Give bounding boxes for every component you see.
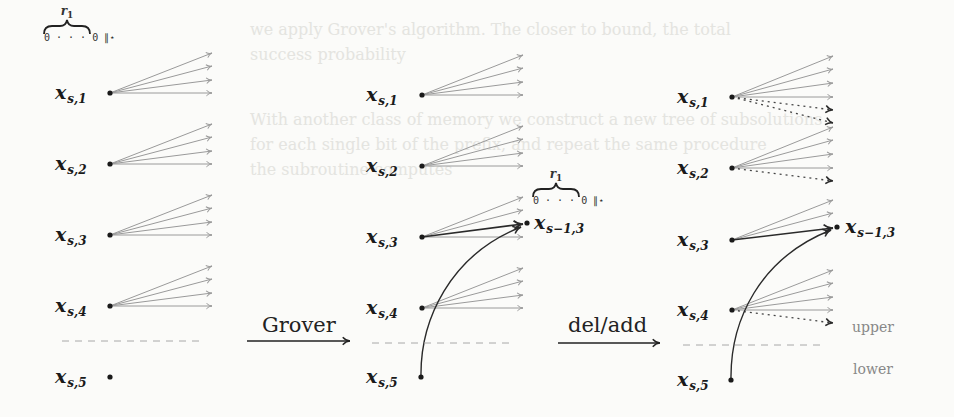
fan-s3 xyxy=(110,195,212,235)
node-label-s4: xs,4 xyxy=(55,296,87,318)
fan-s4 xyxy=(110,266,212,306)
dotted-arrow xyxy=(732,97,833,123)
fan-s4 xyxy=(422,268,523,308)
brace-annotation-col1: r1 xyxy=(40,5,94,20)
node-label-s3: xs,3 xyxy=(55,225,87,247)
node-label-s1: xs,1 xyxy=(677,87,709,109)
node-label-s5: xs,5 xyxy=(55,367,87,389)
node-label-s2: xs,2 xyxy=(366,156,398,178)
brace-label-sub: 1 xyxy=(556,173,562,183)
target-label-s-minus-1-3: xs−1,3 xyxy=(534,213,584,235)
region-label-lower: lower xyxy=(853,362,893,376)
fan-s1 xyxy=(422,55,523,95)
node-label-s2: xs,2 xyxy=(677,158,709,180)
region-label-upper: upper xyxy=(852,320,894,334)
column-initial-fans xyxy=(110,53,212,306)
column-initial-dots xyxy=(107,90,112,379)
dotted-arrow xyxy=(732,97,833,110)
brace-under-text: 0 · · · 0 ∥⋆ xyxy=(533,196,604,206)
dotted-arrow xyxy=(732,168,833,181)
brace-label-sub: 1 xyxy=(67,10,73,20)
node-label-s2: xs,2 xyxy=(55,154,87,176)
column-after-del-add-dotted-fans xyxy=(732,97,833,323)
fan-s2 xyxy=(110,124,212,164)
fan-s1 xyxy=(732,56,833,97)
column-after-grover-fans xyxy=(422,55,523,308)
brace-under-text: 0 · · · 0 ∥⋆ xyxy=(44,33,115,43)
fan-s1 xyxy=(110,53,212,93)
node-label-s4: xs,4 xyxy=(366,298,398,320)
dotted-arrow xyxy=(732,310,833,323)
node-label-s3: xs,3 xyxy=(366,227,398,249)
column-after-del-add-fans xyxy=(732,56,833,310)
brace-under-col2: 0 · · · 0 ∥⋆ xyxy=(533,196,604,206)
node-label-s5: xs,5 xyxy=(677,370,709,392)
node-label-s4: xs,4 xyxy=(677,300,709,322)
node-label-s1: xs,1 xyxy=(55,83,87,105)
node-label-s5: xs,5 xyxy=(366,367,398,389)
brace-annotation-col2: r1 xyxy=(529,168,583,183)
fan-s2 xyxy=(422,126,523,166)
grover-del-add-diagram: we apply Grover's algorithm. The closer … xyxy=(0,0,954,417)
node-label-s3: xs,3 xyxy=(677,230,709,252)
node-label-s1: xs,1 xyxy=(366,85,398,107)
fan-s2 xyxy=(732,127,833,168)
diagram-graphics xyxy=(0,0,954,417)
target-label-s-minus-1-3: xs−1,3 xyxy=(845,217,895,239)
brace-under-col1: 0 · · · 0 ∥⋆ xyxy=(44,33,115,43)
del-add-label: del/add xyxy=(568,315,647,336)
grover-label: Grover xyxy=(262,315,336,336)
